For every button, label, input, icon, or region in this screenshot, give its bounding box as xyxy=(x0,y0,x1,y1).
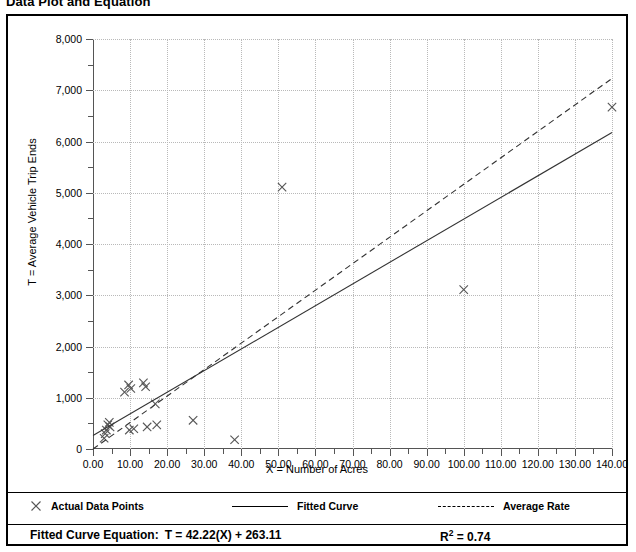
data-point-marker xyxy=(189,416,197,424)
data-point-marker xyxy=(460,285,468,293)
data-point-marker xyxy=(141,383,149,391)
tick-y xyxy=(86,90,93,91)
x-tick-label: 20.00 xyxy=(154,458,180,470)
y-tick-label: 2,000 xyxy=(56,341,82,353)
data-point-marker xyxy=(278,183,286,191)
chart-page: Data Plot and Equation T = Average Vehic… xyxy=(0,0,636,552)
tick-x-minor xyxy=(519,449,520,454)
fitted-curve-equation: Fitted Curve Equation:T = 42.22(X) + 263… xyxy=(30,528,281,542)
tick-x xyxy=(241,449,242,456)
tick-x-minor xyxy=(112,449,113,454)
y-tick-label: 5,000 xyxy=(56,187,82,199)
x-tick-label: 140.00 xyxy=(596,458,628,470)
tick-y xyxy=(86,193,93,194)
tick-x-minor xyxy=(223,449,224,454)
tick-x-minor xyxy=(149,449,150,454)
y-tick-label: 3,000 xyxy=(56,289,82,301)
solid-line-icon xyxy=(232,506,288,507)
tick-x xyxy=(315,449,316,456)
tick-x xyxy=(575,449,576,456)
tick-x-minor xyxy=(334,449,335,454)
x-tick-label: 110.00 xyxy=(485,458,516,470)
y-tick-label: 6,000 xyxy=(56,136,82,148)
x-tick-label: 60.00 xyxy=(302,458,328,470)
chart-frame: T = Average Vehicle Trip Ends X = Number… xyxy=(6,14,628,546)
data-point-marker xyxy=(143,423,151,431)
legend-item-actual-data-points: Actual Data Points xyxy=(30,500,144,512)
tick-x-minor xyxy=(445,449,446,454)
legend-label: Fitted Curve xyxy=(297,500,358,512)
plot-area: T = Average Vehicle Trip Ends X = Number… xyxy=(8,16,626,492)
tick-x-minor xyxy=(482,449,483,454)
y-tick-label: 0 xyxy=(76,443,82,455)
tick-x-minor xyxy=(260,449,261,454)
tick-x xyxy=(390,449,391,456)
x-tick-label: 50.00 xyxy=(265,458,291,470)
tick-x xyxy=(278,449,279,456)
tick-x xyxy=(167,449,168,456)
tick-x xyxy=(204,449,205,456)
average-rate-line xyxy=(93,78,612,449)
tick-x-minor xyxy=(186,449,187,454)
data-point-marker xyxy=(230,436,238,444)
tick-x xyxy=(130,449,131,456)
legend-item-fitted-curve: Fitted Curve xyxy=(232,500,358,512)
tick-x-minor xyxy=(408,449,409,454)
dashed-line-icon xyxy=(438,506,494,507)
equation-label: Fitted Curve Equation: xyxy=(30,528,159,542)
r2-exponent: 2 xyxy=(449,528,454,538)
page-title: Data Plot and Equation xyxy=(6,0,150,9)
plot-axes: 01,0002,0003,0004,0005,0006,0007,0008,00… xyxy=(93,39,612,449)
tick-x-minor xyxy=(556,449,557,454)
x-tick-label: 30.00 xyxy=(191,458,217,470)
legend-item-average-rate: Average Rate xyxy=(438,500,570,512)
tick-x xyxy=(538,449,539,456)
tick-y xyxy=(86,347,93,348)
y-tick-label: 8,000 xyxy=(56,33,82,45)
x-tick-label: 120.00 xyxy=(522,458,554,470)
equation-value: T = 42.22(X) + 263.11 xyxy=(165,528,282,542)
y-tick-label: 4,000 xyxy=(56,238,82,250)
x-tick-label: 90.00 xyxy=(414,458,440,470)
fitted-curve-line xyxy=(93,133,612,436)
x-tick-label: 10.00 xyxy=(117,458,143,470)
legend-label: Actual Data Points xyxy=(51,500,144,512)
tick-x xyxy=(464,449,465,456)
x-tick-label: 40.00 xyxy=(228,458,254,470)
r-squared-value: R2 = 0.74 xyxy=(440,528,490,544)
tick-y xyxy=(86,449,93,450)
data-point-marker xyxy=(153,421,161,429)
x-tick-label: 100.00 xyxy=(448,458,480,470)
tick-x-minor xyxy=(297,449,298,454)
tick-x xyxy=(501,449,502,456)
x-tick-label: 130.00 xyxy=(559,458,591,470)
legend-label: Average Rate xyxy=(503,500,570,512)
x-tick-label: 70.00 xyxy=(339,458,365,470)
tick-y xyxy=(86,142,93,143)
tick-x-minor xyxy=(593,449,594,454)
tick-x-minor xyxy=(371,449,372,454)
tick-y xyxy=(86,398,93,399)
x-marker-icon xyxy=(30,500,42,512)
r2-number: = 0.74 xyxy=(457,530,491,544)
y-tick-label: 1,000 xyxy=(56,392,82,404)
tick-x xyxy=(427,449,428,456)
tick-x xyxy=(612,449,613,456)
data-layer xyxy=(93,39,612,449)
y-axis-label: T = Average Vehicle Trip Ends xyxy=(26,102,38,322)
x-tick-label: 80.00 xyxy=(376,458,402,470)
y-tick-label: 7,000 xyxy=(56,84,82,96)
gridline-vertical xyxy=(612,39,613,449)
chart-footer: Fitted Curve Equation:T = 42.22(X) + 263… xyxy=(8,524,626,546)
tick-x xyxy=(353,449,354,456)
tick-y xyxy=(86,295,93,296)
chart-legend: Actual Data Points Fitted Curve Average … xyxy=(8,492,626,524)
r2-prefix: R xyxy=(440,530,449,544)
tick-y xyxy=(86,244,93,245)
tick-x xyxy=(93,449,94,456)
tick-y xyxy=(86,39,93,40)
x-tick-label: 0.00 xyxy=(83,458,103,470)
